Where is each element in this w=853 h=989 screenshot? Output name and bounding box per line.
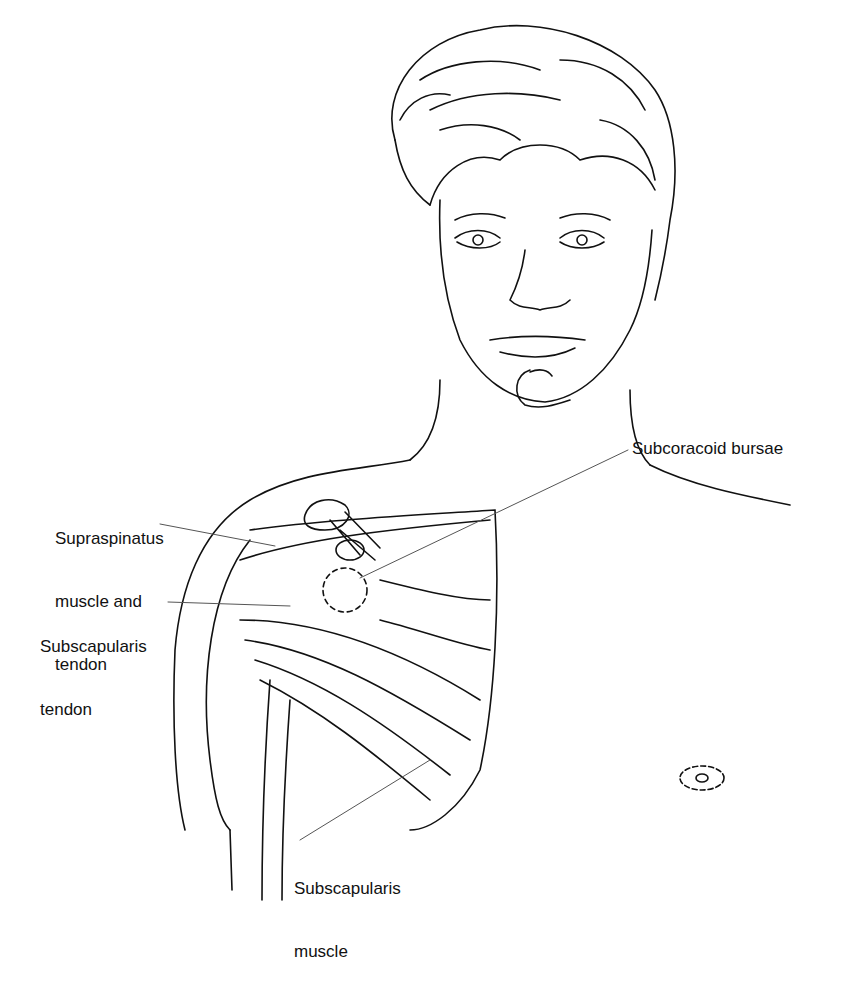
- label-line: Supraspinatus: [55, 528, 164, 549]
- label-line: Subscapularis: [294, 878, 401, 899]
- label-line: tendon: [40, 699, 147, 720]
- label-line: Subscapularis: [40, 636, 147, 657]
- label-line: muscle: [294, 941, 401, 962]
- anatomy-diagram: Subcoracoid bursae Supraspinatus muscle …: [0, 0, 853, 989]
- label-subcoracoid-bursae: Subcoracoid bursae: [632, 438, 783, 459]
- label-subscapularis-tendon: Subscapularis tendon: [40, 594, 147, 741]
- label-subscapularis-muscle: Subscapularis muscle: [294, 836, 401, 983]
